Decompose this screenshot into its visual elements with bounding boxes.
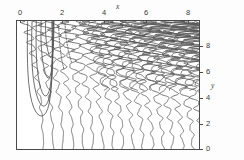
x-tick-label-6: 6 bbox=[144, 9, 148, 17]
y-tick-8 bbox=[200, 46, 203, 47]
contour-plot-figure: 0 2 4 6 8 x 8 6 4 2 0 y bbox=[0, 0, 244, 160]
y-tick-label-0: 0 bbox=[206, 145, 210, 153]
y-tick-2 bbox=[200, 124, 203, 125]
x-tick-6 bbox=[146, 20, 147, 23]
x-axis-title: x bbox=[116, 3, 119, 11]
y-tick-4 bbox=[200, 98, 203, 99]
plot-area bbox=[16, 20, 200, 150]
y-tick-label-2: 2 bbox=[206, 120, 210, 128]
x-tick-label-2: 2 bbox=[60, 9, 64, 17]
y-tick-label-8: 8 bbox=[206, 42, 210, 50]
x-tick-label-4: 4 bbox=[102, 9, 106, 17]
x-tick-2 bbox=[62, 20, 63, 23]
x-tick-0 bbox=[20, 20, 21, 23]
x-tick-8 bbox=[188, 20, 189, 23]
y-axis-title: y bbox=[211, 82, 214, 90]
y-tick-6 bbox=[200, 72, 203, 73]
y-tick-0 bbox=[200, 149, 203, 150]
x-tick-label-8: 8 bbox=[186, 9, 190, 17]
x-tick-4 bbox=[104, 20, 105, 23]
x-tick-label-0: 0 bbox=[18, 9, 22, 17]
contour-lines bbox=[17, 21, 199, 149]
y-tick-label-6: 6 bbox=[206, 68, 210, 76]
y-tick-label-4: 4 bbox=[206, 94, 210, 102]
